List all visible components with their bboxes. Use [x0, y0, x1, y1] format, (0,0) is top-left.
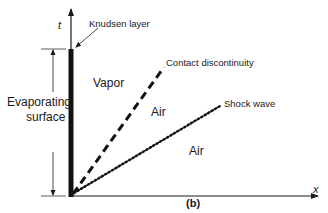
contact-discontinuity-label: Contact discontinuity	[166, 58, 254, 68]
shock-wave-label: Shock wave	[224, 99, 275, 109]
t-axis-label: t	[58, 20, 61, 31]
region-air-lower-label: Air	[189, 145, 204, 157]
knudsen-pointer-arrow	[76, 28, 98, 47]
x-axis-label: x	[313, 184, 319, 195]
knudsen-layer-bar	[69, 49, 74, 197]
knudsen-layer-label: Knudsen layer	[89, 19, 150, 29]
figure-caption: (b)	[186, 198, 200, 209]
region-vapor-label: Vapor	[93, 77, 124, 89]
evaporating-surface-label-line2: surface	[26, 111, 65, 123]
region-air-middle-label: Air	[151, 106, 166, 118]
evaporating-surface-label-line1: Evaporating	[7, 96, 71, 108]
